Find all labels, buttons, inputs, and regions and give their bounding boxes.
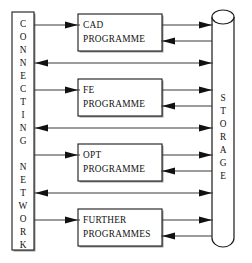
opt-programme-line2: PROGRAMME xyxy=(83,164,145,174)
net-letter: N xyxy=(20,123,27,133)
link-network-to-fe xyxy=(34,86,80,93)
diagram-canvas: C O N N E C T I N G N E T W O R K xyxy=(0,0,252,263)
net-letter: R xyxy=(20,227,27,237)
cad-programme-group[interactable]: CAD PROGRAMME xyxy=(78,14,164,53)
link-fe-to-storage xyxy=(162,86,213,93)
storage-letter: G xyxy=(220,158,227,168)
fe-programme-line1: FE xyxy=(83,85,94,95)
bypass-line-2 xyxy=(34,124,213,131)
cad-programme-line2: PROGRAMME xyxy=(83,34,145,44)
link-network-to-cad xyxy=(34,21,80,28)
net-letter: K xyxy=(20,240,27,250)
net-letter: T xyxy=(20,97,26,107)
diagram-svg: C O N N E C T I N G N E T W O R K xyxy=(0,0,252,263)
link-network-to-opt xyxy=(34,151,80,158)
storage-letter: T xyxy=(220,106,226,116)
storage-cylinder[interactable]: S T O R A G E xyxy=(212,10,234,247)
net-letter: N xyxy=(20,162,27,172)
net-letter: O xyxy=(20,214,27,224)
fe-programme-line2: PROGRAMME xyxy=(83,99,145,109)
net-letter: E xyxy=(20,175,26,185)
storage-label: S T O R A G E xyxy=(220,93,227,181)
opt-programme-group[interactable]: OPT PROGRAMME xyxy=(78,144,164,183)
further-programmes-line1: FURTHER xyxy=(83,215,127,225)
link-network-to-further xyxy=(34,216,80,223)
cad-programme-line1: CAD xyxy=(83,20,103,30)
net-letter: G xyxy=(20,136,27,146)
link-opt-to-storage xyxy=(162,151,213,158)
storage-letter: E xyxy=(220,171,226,181)
fe-programme-group[interactable]: FE PROGRAMME xyxy=(78,79,164,118)
bypass-line-3 xyxy=(34,189,213,196)
link-storage-to-fe xyxy=(161,102,212,109)
link-storage-to-further xyxy=(161,232,212,239)
link-storage-to-cad xyxy=(161,37,212,44)
opt-programme-line1: OPT xyxy=(83,150,101,160)
link-cad-to-storage xyxy=(162,21,213,28)
net-letter: C xyxy=(20,84,26,94)
net-letter: O xyxy=(20,32,27,42)
net-letter: C xyxy=(20,19,26,29)
further-programmes-group[interactable]: FURTHER PROGRAMMES xyxy=(78,209,164,248)
storage-letter: A xyxy=(220,145,227,155)
link-storage-to-opt xyxy=(161,167,212,174)
net-letter: N xyxy=(20,58,27,68)
link-further-to-storage xyxy=(162,216,213,223)
bypass-line-1 xyxy=(34,59,213,66)
storage-letter: R xyxy=(220,132,227,142)
net-letter: T xyxy=(20,188,26,198)
net-letter: I xyxy=(21,110,24,120)
storage-letter: O xyxy=(220,119,227,129)
storage-letter: S xyxy=(220,93,225,103)
net-letter: W xyxy=(19,201,28,211)
net-letter: N xyxy=(20,45,27,55)
connecting-network[interactable]: C O N N E C T I N G N E T W O R K xyxy=(12,12,36,252)
net-letter: E xyxy=(20,71,26,81)
further-programmes-line2: PROGRAMMES xyxy=(83,229,151,239)
